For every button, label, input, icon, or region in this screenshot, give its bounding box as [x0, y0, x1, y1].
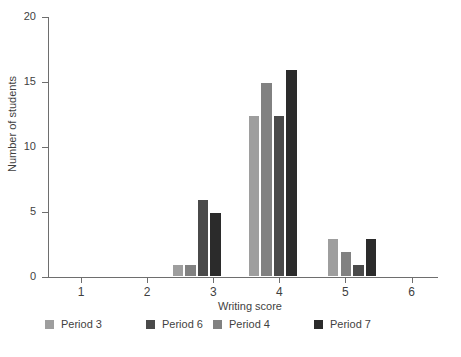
legend-swatch-icon: [146, 320, 155, 329]
x-tick-mark: [213, 277, 214, 283]
x-axis-line: [48, 277, 438, 278]
legend-item: Period 3: [45, 318, 102, 330]
y-tick-label: 0: [0, 271, 36, 282]
y-tick-label: 5: [0, 206, 36, 217]
x-tick-label: 6: [397, 286, 427, 298]
x-tick-mark: [345, 277, 346, 283]
x-tick-label: 5: [330, 286, 360, 298]
bar: [260, 82, 273, 277]
x-tick-mark: [412, 277, 413, 283]
x-tick-mark: [81, 277, 82, 283]
bar: [184, 264, 197, 277]
x-tick-label: 4: [264, 286, 294, 298]
bar: [248, 115, 261, 278]
chart-legend: Period 3Period 6Period 4Period 7: [45, 318, 371, 332]
legend-item: Period 6: [146, 318, 203, 330]
legend-swatch-icon: [314, 320, 323, 329]
bar: [197, 199, 210, 277]
bar: [209, 212, 222, 277]
chart-figure: 05101520 123456 Number of students Writi…: [0, 0, 461, 357]
bar: [352, 264, 365, 277]
bar: [273, 115, 286, 278]
x-axis-title: Writing score: [150, 300, 350, 312]
legend-label: Period 7: [330, 318, 371, 330]
y-tick-label: 20: [0, 11, 36, 22]
x-tick-label: 2: [132, 286, 162, 298]
bar: [327, 238, 340, 277]
legend-item: Period 7: [314, 318, 371, 330]
y-axis-title: Number of students: [6, 54, 18, 194]
y-tick-mark: [42, 277, 48, 278]
x-tick-label: 1: [66, 286, 96, 298]
bar: [340, 251, 353, 277]
bar: [172, 264, 185, 277]
legend-label: Period 4: [229, 318, 270, 330]
legend-swatch-icon: [45, 320, 54, 329]
legend-label: Period 6: [162, 318, 203, 330]
bar: [365, 238, 378, 277]
bars-layer: [48, 17, 438, 277]
legend-swatch-icon: [213, 320, 222, 329]
x-tick-mark: [279, 277, 280, 283]
legend-item: Period 4: [213, 318, 270, 330]
x-tick-label: 3: [198, 286, 228, 298]
x-tick-mark: [147, 277, 148, 283]
legend-label: Period 3: [61, 318, 102, 330]
bar: [285, 69, 298, 277]
